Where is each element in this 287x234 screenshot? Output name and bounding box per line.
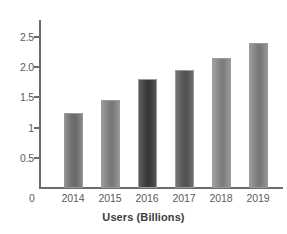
y-tick-mark (34, 96, 41, 98)
bar-2016 (138, 79, 157, 188)
x-tick-label-2019: 2019 (238, 192, 278, 204)
x-tick-label-2018: 2018 (201, 192, 241, 204)
y-tick-label: 1.5 (0, 92, 34, 103)
bar-2015 (101, 100, 120, 188)
y-tick-mark (34, 36, 41, 38)
bar-2018 (212, 58, 231, 188)
y-tick-mark (34, 127, 41, 129)
x-tick-label-2015: 2015 (90, 192, 130, 204)
bar-2019 (249, 43, 268, 188)
y-tick-label: 2.5 (0, 32, 34, 43)
x-tick-label-2014: 2014 (53, 192, 93, 204)
x-tick-label-2017: 2017 (164, 192, 204, 204)
y-axis-line (39, 20, 41, 189)
y-tick-label: 0.5 (0, 153, 34, 164)
y-tick-mark (34, 66, 41, 68)
x-tick-label-2016: 2016 (127, 192, 167, 204)
x-axis-title: Users (Billions) (0, 211, 287, 223)
bar-chart-figure: 0.511.52.02.5 201420152016201720182019 0… (0, 0, 287, 234)
y-tick-label: 2.0 (0, 62, 34, 73)
bar-2014 (64, 113, 83, 188)
y-tick-mark (34, 157, 41, 159)
y-tick-label: 1 (0, 123, 34, 134)
y-axis-zero-label: 0 (29, 192, 35, 204)
bar-2017 (175, 70, 194, 188)
